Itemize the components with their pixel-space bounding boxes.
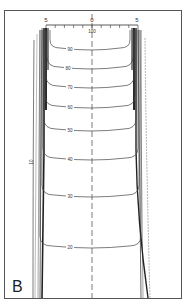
contour-line-30 <box>42 30 139 197</box>
contour-line-50 <box>44 30 136 131</box>
contour-lines: 9080706050403020 <box>40 30 141 250</box>
contour-label-40: 40 <box>67 157 73 162</box>
contour-plot: 5 0 5 100 9080706050403020 10 B <box>0 0 186 302</box>
center-value-label: 100 <box>88 29 96 34</box>
contour-line-70 <box>46 30 134 88</box>
scale-tick-left: 5 <box>44 17 48 23</box>
contour-line-40 <box>43 30 138 160</box>
scale-tick-center: 0 <box>90 17 94 23</box>
contour-figure: 5 0 5 100 9080706050403020 10 B <box>0 0 186 302</box>
contour-label-30: 30 <box>67 194 73 199</box>
panel-label: B <box>12 278 23 295</box>
contour-label-20: 20 <box>67 245 73 250</box>
contour-label-90: 90 <box>67 47 73 52</box>
contour-line-20 <box>40 30 141 248</box>
contour-label-60: 60 <box>67 105 73 110</box>
contour-label-10: 10 <box>29 159 34 165</box>
scale-tick-right: 5 <box>135 17 139 23</box>
contour-label-70: 70 <box>67 85 73 90</box>
contour-line-80 <box>47 30 133 69</box>
contour-label-80: 80 <box>65 66 71 71</box>
contour-label-50: 50 <box>67 128 73 133</box>
scale-ruler: 5 0 5 100 <box>44 17 139 34</box>
figure-frame <box>5 11 182 299</box>
